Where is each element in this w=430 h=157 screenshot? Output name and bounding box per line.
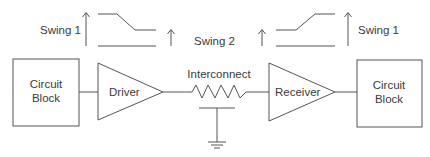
- swing-middle-group: Swing 2: [171, 30, 262, 47]
- receiver-buffer: Receiver: [269, 63, 335, 121]
- swing-right-group: Swing 1: [276, 13, 399, 46]
- resistor-icon: [192, 85, 246, 98]
- source-block-label-line1: Circuit: [30, 78, 63, 90]
- capacitor-icon: [199, 108, 235, 142]
- sink-block-label-line2: Block: [375, 93, 403, 105]
- sink-block-label-line1: Circuit: [373, 79, 406, 91]
- swing-left-label: Swing 1: [40, 24, 81, 36]
- sink-circuit-block: Circuit Block: [357, 60, 422, 127]
- source-circuit-block: Circuit Block: [13, 59, 79, 126]
- ground-icon: [208, 142, 226, 148]
- swing-left-group: Swing 1: [40, 13, 156, 46]
- falling-waveform: [98, 14, 156, 30]
- swing-middle-label: Swing 2: [194, 35, 235, 47]
- receiver-label: Receiver: [275, 86, 321, 98]
- driver-label: Driver: [109, 86, 140, 98]
- swing-right-label: Swing 1: [358, 24, 399, 36]
- source-block-label-line2: Block: [32, 92, 60, 104]
- driver-buffer: Driver: [98, 63, 163, 120]
- interconnect-diagram: Swing 1 Swing 2 Swing 1 Circuit Block Dr…: [0, 0, 430, 157]
- interconnect-label: Interconnect: [187, 68, 251, 80]
- rising-waveform: [276, 14, 335, 30]
- interconnect: Interconnect: [187, 68, 251, 148]
